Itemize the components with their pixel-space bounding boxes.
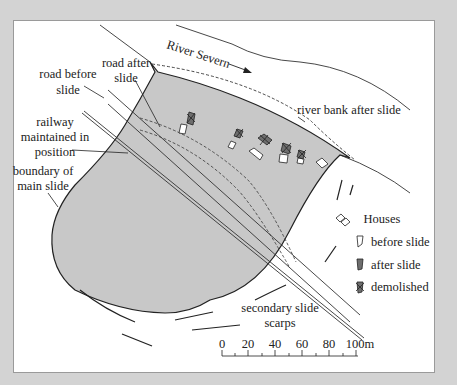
railway-label: railwaymaintained inposition bbox=[21, 115, 90, 159]
legend: Houses before slide after slide demolish… bbox=[356, 212, 430, 294]
legend-after-icon bbox=[357, 259, 363, 270]
svg-text:020406080100m: 020406080100m bbox=[219, 337, 375, 351]
road-after-label: road afterslide bbox=[102, 56, 151, 85]
legend-title: Houses bbox=[364, 212, 401, 226]
river-bank-line-lower bbox=[340, 155, 410, 193]
road-before-label: road beforeslide bbox=[39, 67, 97, 97]
house-before bbox=[336, 214, 350, 226]
landslide-map: River Severn road afterslide road before… bbox=[0, 0, 457, 385]
river-bank-arrow bbox=[298, 117, 305, 122]
legend-before-icon bbox=[357, 236, 363, 247]
road-before-arrow bbox=[84, 86, 104, 98]
house-before bbox=[279, 154, 288, 163]
scale-bar: 020406080100m bbox=[219, 337, 375, 356]
boundary-arrow bbox=[48, 193, 58, 207]
river-bank-label: river bank after slide bbox=[297, 103, 401, 117]
legend-after-label: after slide bbox=[371, 258, 421, 272]
river-label: River Severn bbox=[165, 38, 232, 72]
legend-demolished-label: demolished bbox=[371, 280, 429, 294]
secondary-scarps-label: secondary slidescarps bbox=[241, 301, 319, 330]
legend-before-label: before slide bbox=[371, 235, 430, 249]
boundary-label: boundary ofmain slide bbox=[13, 164, 75, 193]
